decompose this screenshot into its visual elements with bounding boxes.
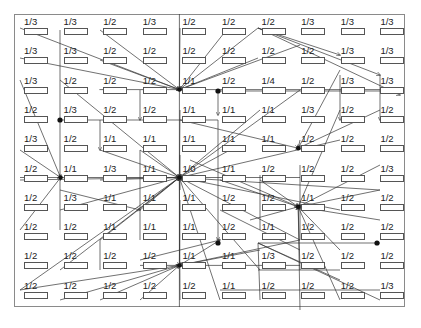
cell-value-box (24, 233, 48, 240)
cell-fraction-label: 1/3 (380, 76, 393, 86)
cell-value-box (64, 292, 88, 299)
grid-cell: 1/3 (341, 17, 377, 43)
grid-cell: 1/2 (341, 251, 377, 277)
cell-fraction-label: 1/2 (222, 46, 235, 56)
cell-fraction-label: 1/2 (262, 193, 275, 203)
grid-cell: 1/2 (222, 17, 258, 43)
grid-cell: 1/3 (301, 105, 337, 131)
grid-cell: 1/1 (222, 164, 258, 190)
cell-value-box (143, 175, 167, 182)
cell-value-box (103, 204, 127, 211)
cell-fraction-label: 1/1 (182, 251, 195, 261)
cell-fraction-label: 1/3 (341, 17, 354, 27)
cell-fraction-label: 1/1 (64, 164, 77, 174)
cell-fraction-label: 1/2 (143, 46, 156, 56)
grid-cell: 1/1 (182, 76, 218, 102)
cell-value-box (262, 292, 286, 299)
cell-value-box (222, 262, 246, 269)
cell-fraction-label: 1/2 (380, 105, 393, 115)
grid-cell: 1/3 (64, 17, 100, 43)
cell-fraction-label: 1/2 (103, 46, 116, 56)
grid-cell: 1/2 (24, 251, 60, 277)
cell-value-box (222, 28, 246, 35)
cell-value-box (222, 57, 246, 64)
cell-value-box (380, 292, 404, 299)
cell-value-box (103, 175, 127, 182)
cell-fraction-label: 1/2 (143, 251, 156, 261)
cell-fraction-label: 1/1 (262, 222, 275, 232)
grid-cell: 1/2 (222, 76, 258, 102)
cell-value-box (341, 175, 365, 182)
grid-cell: 1/2 (301, 222, 337, 248)
cell-fraction-label: 1/2 (143, 281, 156, 291)
cell-fraction-label: 1/2 (222, 193, 235, 203)
grid-cell: 1/1 (222, 105, 258, 131)
cell-value-box (301, 116, 325, 123)
cell-value-box (341, 145, 365, 152)
cell-fraction-label: 1/3 (64, 17, 77, 27)
cell-fraction-label: 1/2 (24, 281, 37, 291)
grid-cell: 1/2 (262, 193, 298, 219)
cell-fraction-label: 1/3 (143, 17, 156, 27)
cell-fraction-label: 1/2 (301, 46, 314, 56)
grid-cell: 1/1 (262, 134, 298, 160)
cell-value-box (301, 233, 325, 240)
cell-value-box (380, 57, 404, 64)
cell-value-box (341, 204, 365, 211)
cell-value-box (64, 57, 88, 64)
cell-fraction-label: 1/2 (341, 134, 354, 144)
grid-cell: 1/0 (182, 164, 218, 190)
cell-fraction-label: 1/4 (262, 76, 275, 86)
cell-fraction-label: 1/3 (24, 134, 37, 144)
cell-fraction-label: 1/3 (341, 46, 354, 56)
cell-value-box (182, 262, 206, 269)
cell-value-box (143, 116, 167, 123)
diagram-canvas: 1/31/31/21/31/21/21/21/31/31/31/31/31/21… (0, 0, 421, 328)
cell-value-box (103, 262, 127, 269)
cell-fraction-label: 1/2 (103, 281, 116, 291)
grid-cell: 1/2 (341, 193, 377, 219)
cell-fraction-label: 1/1 (262, 105, 275, 115)
cell-value-box (143, 292, 167, 299)
cell-value-box (222, 116, 246, 123)
cell-value-box (262, 175, 286, 182)
cell-fraction-label: 1/1 (182, 222, 195, 232)
cell-value-box (341, 57, 365, 64)
grid-cell: 1/2 (24, 281, 60, 307)
cell-fraction-label: 1/3 (64, 46, 77, 56)
cell-fraction-label: 1/2 (262, 281, 275, 291)
cell-value-box (380, 116, 404, 123)
cell-fraction-label: 1/1 (222, 251, 235, 261)
grid-cell: 1/3 (24, 46, 60, 72)
cell-value-box (301, 28, 325, 35)
grid-cell: 1/3 (24, 134, 60, 160)
cell-fraction-label: 1/2 (182, 17, 195, 27)
grid-cell: 1/2 (182, 281, 218, 307)
cell-value-box (262, 28, 286, 35)
grid-cell: 1/3 (143, 17, 179, 43)
grid-cell: 1/3 (341, 46, 377, 72)
cell-value-box (262, 262, 286, 269)
grid-cell: 1/3 (380, 17, 416, 43)
cell-value-box (380, 262, 404, 269)
grid-cell: 1/1 (64, 164, 100, 190)
cell-fraction-label: 1/2 (64, 222, 77, 232)
cell-fraction-label: 1/3 (380, 46, 393, 56)
cell-fraction-label: 1/3 (380, 281, 393, 291)
cell-fraction-label: 1/2 (103, 105, 116, 115)
cell-value-box (301, 57, 325, 64)
cell-fraction-label: 1/2 (143, 76, 156, 86)
cell-fraction-label: 1/2 (301, 281, 314, 291)
grid-cell: 1/2 (380, 134, 416, 160)
cell-value-box (262, 87, 286, 94)
cell-fraction-label: 1/1 (222, 164, 235, 174)
cell-value-box (222, 87, 246, 94)
cell-value-box (380, 28, 404, 35)
cell-fraction-label: 1/2 (24, 222, 37, 232)
cell-value-box (24, 145, 48, 152)
cell-fraction-label: 1/2 (341, 193, 354, 203)
grid-cell: 1/3 (262, 251, 298, 277)
cell-value-box (64, 145, 88, 152)
grid-cell: 1/1 (103, 222, 139, 248)
cell-fraction-label: 1/1 (143, 193, 156, 203)
